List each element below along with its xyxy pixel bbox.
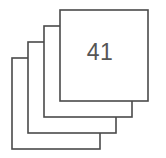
stack-canvas: 41: [0, 0, 166, 158]
stacked-squares-figure: 41: [0, 0, 166, 158]
count-label: 41: [87, 39, 114, 65]
